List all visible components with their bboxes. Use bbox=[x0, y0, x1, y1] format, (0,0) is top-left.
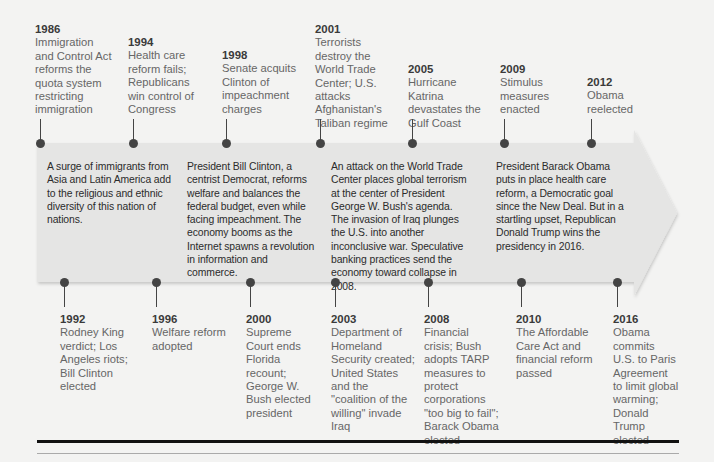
event-description: Health care reform fails; Republicans wi… bbox=[128, 49, 206, 116]
pin-dot-icon bbox=[222, 139, 231, 148]
event-description: Obama commits U.S. to Paris Agreement to… bbox=[613, 326, 679, 447]
pin-dot-icon bbox=[129, 139, 138, 148]
timeline-event-1996: 1996Welfare reform adopted bbox=[152, 313, 232, 353]
event-year: 2010 bbox=[516, 313, 596, 326]
pin-dot-icon bbox=[152, 278, 161, 287]
timeline-event-2005: 2005Hurricane Katrina devastates the Gul… bbox=[408, 63, 492, 130]
timeline-event-1994: 1994Health care reform fails; Republican… bbox=[128, 36, 206, 116]
event-year: 1992 bbox=[60, 313, 140, 326]
pin-dot-icon bbox=[316, 139, 325, 148]
timeline-event-2001: 2001Terrorists destroy the World Trade C… bbox=[315, 23, 399, 130]
event-description: Senate acquits Clinton of impeachment ch… bbox=[222, 62, 300, 116]
timeline-event-2000: 2000Supreme Court ends Florida recount; … bbox=[246, 313, 320, 420]
event-year: 2016 bbox=[613, 313, 679, 326]
event-description: Obama reelected bbox=[587, 89, 665, 116]
event-year: 1994 bbox=[128, 36, 206, 49]
rule-thin bbox=[37, 453, 679, 454]
era-summary: An attack on the World Trade Center plac… bbox=[331, 160, 469, 293]
event-description: Rodney King verdict; Los Angeles riots; … bbox=[60, 326, 140, 393]
era-summary: President Bill Clinton, a centrist Democ… bbox=[187, 160, 315, 280]
timeline-event-2009: 2009Stimulus measures enacted bbox=[500, 63, 578, 117]
pin-dot-icon bbox=[424, 278, 433, 287]
pin-dot-icon bbox=[408, 139, 417, 148]
timeline-event-2008: 2008Financial crisis; Bush adopts TARP m… bbox=[424, 313, 500, 447]
event-description: Immigration and Control Act reforms the … bbox=[35, 36, 113, 116]
event-year: 1986 bbox=[35, 23, 113, 36]
pin-dot-icon bbox=[36, 139, 45, 148]
timeline-event-1992: 1992Rodney King verdict; Los Angeles rio… bbox=[60, 313, 140, 393]
event-year: 1998 bbox=[222, 49, 300, 62]
pin-dot-icon bbox=[517, 278, 526, 287]
era-summary: A surge of immigrants from Asia and Lati… bbox=[47, 160, 177, 226]
event-description: Welfare reform adopted bbox=[152, 326, 232, 353]
rule-thick bbox=[37, 440, 679, 443]
event-description: Department of Homeland Security created;… bbox=[331, 326, 415, 433]
event-year: 2012 bbox=[587, 76, 665, 89]
event-description: The Affordable Care Act and financial re… bbox=[516, 326, 596, 380]
event-description: Terrorists destroy the World Trade Cente… bbox=[315, 36, 399, 130]
pin-dot-icon bbox=[246, 278, 255, 287]
timeline-event-1986: 1986Immigration and Control Act reforms … bbox=[35, 23, 113, 117]
event-description: Supreme Court ends Florida recount; Geor… bbox=[246, 326, 320, 420]
event-description: Stimulus measures enacted bbox=[500, 76, 578, 116]
event-year: 2009 bbox=[500, 63, 578, 76]
event-year: 2000 bbox=[246, 313, 320, 326]
timeline-event-2010: 2010The Affordable Care Act and financia… bbox=[516, 313, 596, 380]
era-summary: President Barack Obama puts in place hea… bbox=[496, 160, 631, 253]
pin-dot-icon bbox=[587, 139, 596, 148]
event-description: Hurricane Katrina devastates the Gulf Co… bbox=[408, 76, 492, 130]
pin-dot-icon bbox=[500, 139, 509, 148]
pin-dot-icon bbox=[613, 278, 622, 287]
event-year: 2001 bbox=[315, 23, 399, 36]
timeline-event-2012: 2012Obama reelected bbox=[587, 76, 665, 116]
timeline-event-1998: 1998Senate acquits Clinton of impeachmen… bbox=[222, 49, 300, 116]
pin-dot-icon bbox=[331, 278, 340, 287]
timeline-event-2016: 2016Obama commits U.S. to Paris Agreemen… bbox=[613, 313, 679, 447]
event-description: Financial crisis; Bush adopts TARP measu… bbox=[424, 326, 500, 447]
event-year: 2003 bbox=[331, 313, 415, 326]
event-year: 2005 bbox=[408, 63, 492, 76]
event-year: 2008 bbox=[424, 313, 500, 326]
timeline-event-2003: 2003Department of Homeland Security crea… bbox=[331, 313, 415, 434]
event-year: 1996 bbox=[152, 313, 232, 326]
pin-dot-icon bbox=[60, 278, 69, 287]
